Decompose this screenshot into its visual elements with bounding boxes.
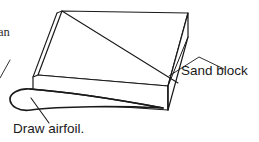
- draw-airfoil-label: Draw airfoil.: [13, 122, 84, 136]
- clipped-margin-text: an: [0, 25, 10, 40]
- clipped-edge-stroke: [0, 60, 10, 78]
- figure-container: an Sand block Draw airfoil.: [0, 0, 259, 142]
- sand-block-label: Sand block: [181, 64, 248, 78]
